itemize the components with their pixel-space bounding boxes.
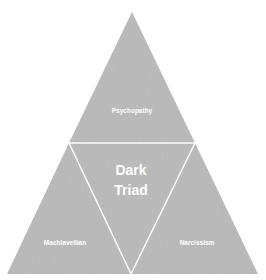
label-psychopathy: Psychopathy xyxy=(112,107,152,114)
segment-psychopathy xyxy=(69,12,195,143)
label-triad: Triad xyxy=(114,180,147,200)
label-dark: Dark xyxy=(114,160,147,180)
label-machiavellian: Machiavellian xyxy=(44,239,86,246)
dark-triad-diagram: Psychopathy Dark Triad Machiavellian Nar… xyxy=(0,0,266,280)
label-narcissism: Narcissism xyxy=(180,239,215,246)
label-dark-triad: Dark Triad xyxy=(114,160,147,200)
pyramid-shape xyxy=(0,0,266,280)
